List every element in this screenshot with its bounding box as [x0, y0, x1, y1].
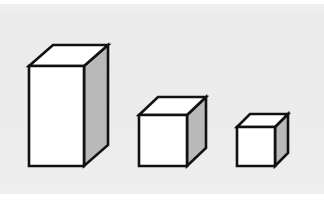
medium-cube-front-face	[139, 115, 187, 166]
medium-cube	[139, 97, 206, 166]
tall-box	[29, 45, 108, 166]
small-cube	[237, 114, 288, 166]
tall-box-front-face	[29, 66, 84, 166]
figure-root	[0, 0, 324, 207]
small-cube-front-face	[237, 127, 275, 166]
boxes-diagram	[0, 0, 324, 207]
